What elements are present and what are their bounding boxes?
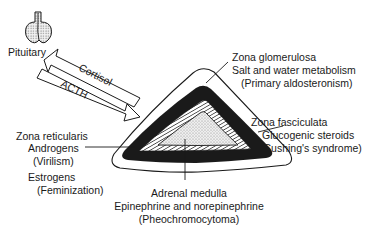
zona-glomerulosa-disorder: (Primary aldosteronism) — [241, 77, 352, 90]
pituitary-label: Pituitary — [8, 46, 46, 59]
zona-glomerulosa-name: Zona glomerulosa — [232, 51, 316, 64]
adrenal-medulla-function: Epinephrine and norepinephrine — [94, 200, 284, 213]
zona-fasciculata-name: Zona fasciculata — [251, 116, 327, 129]
adrenal-diagram: Cortisol ACTH Pituitary Zona glomerulosa… — [0, 0, 374, 230]
adrenal-medulla-name: Adrenal medulla — [104, 187, 274, 200]
zona-reticularis-disorder-virilism: (Virilism) — [33, 155, 74, 168]
zona-reticularis-disorder-feminization: (Feminization) — [37, 184, 104, 197]
zona-fasciculata-function: Glucogenic steroids — [262, 129, 354, 142]
pituitary-icon — [26, 12, 52, 43]
zona-reticularis-function-androgens: Androgens — [28, 142, 79, 155]
adrenal-medulla-disorder: (Pheochromocytoma) — [104, 213, 274, 226]
zona-reticularis-function-estrogens: Estrogens — [28, 171, 75, 184]
zona-glomerulosa-function: Salt and water metabolism — [232, 64, 356, 77]
zona-fasciculata-disorder: (Cushing's syndrome) — [260, 142, 362, 155]
